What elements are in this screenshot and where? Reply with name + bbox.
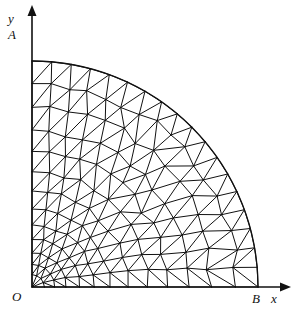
mesh-edge [82,140,100,143]
mesh-edge [93,275,110,287]
mesh-edge [32,209,46,210]
mesh-edge [65,114,87,137]
mesh-edge [80,159,97,164]
mesh-edge [78,243,85,252]
mesh-edge [45,268,50,274]
mesh-edge [93,275,94,287]
mesh-edge [80,143,101,159]
mesh-edge [96,164,110,174]
mesh-edge [186,252,187,268]
mesh-edge [141,213,154,223]
mesh-edge [87,75,110,91]
mesh-edge [46,192,48,209]
mesh-edge [154,150,165,166]
mesh-edge [145,174,151,190]
mesh-edge [88,114,106,120]
mesh-edge [54,280,66,287]
mesh-edge [203,215,222,231]
mesh-edge [121,108,139,115]
mesh-edge [138,237,161,239]
mesh-edge [118,144,135,153]
mesh-edge [135,121,157,144]
mesh-edge [185,142,205,147]
mesh-edge [49,152,65,157]
mesh-edge [58,213,71,220]
mesh-edge [171,135,185,147]
y-axis-arrowhead [28,5,37,16]
mesh-edge [180,166,194,181]
mesh-edge [32,225,44,227]
mesh-edge [206,248,209,270]
mesh-edge [209,248,238,250]
mesh-edge [49,106,50,131]
x-axis-label: x [271,292,277,305]
mesh-edge [138,223,154,239]
mesh-edge [53,244,62,249]
mesh-edge [48,173,50,193]
mesh-edge [49,131,65,137]
mesh-edge [80,159,81,179]
mesh-edge [147,269,148,287]
mesh-edge [110,271,128,273]
mesh-edge [187,268,189,287]
mesh-edge [173,218,182,235]
mesh-edge [110,273,128,287]
mesh-edge [56,231,67,234]
mesh-edge [65,140,82,157]
mesh-edge [71,220,82,226]
mesh-edge [50,90,70,107]
mesh-edge [142,237,161,254]
mesh-edge [32,62,52,84]
mesh-edge [194,166,204,180]
mesh-edge [120,212,141,213]
mesh-edge [154,135,171,150]
mesh-edge [100,143,118,152]
mesh-edge [148,269,167,287]
mesh-edge [157,121,171,135]
mesh-edge [44,210,46,227]
mesh-edge [37,276,41,279]
mesh-edge [203,157,217,180]
mesh-edge [167,268,187,270]
mesh-edge [167,252,186,269]
mesh-edge [209,231,232,249]
mesh-edge [222,215,232,231]
mesh-edge [64,157,66,178]
mesh-edge [75,264,88,266]
mesh-edge [182,215,198,236]
mesh-edge [222,210,245,215]
mesh-edge [139,115,157,121]
mesh-edge [111,174,123,183]
mesh-edge [81,179,94,190]
mesh-edge [65,278,66,287]
mesh-edge [88,249,98,264]
mesh-edge [50,274,53,280]
mesh-edge [32,210,46,225]
mesh-edge [82,226,90,238]
mesh-edge [217,174,228,196]
mesh-edge [138,239,142,254]
mesh-edge [182,235,186,252]
mesh-edge [142,255,149,270]
mesh-edge [165,204,174,218]
mesh-edge [51,64,71,83]
mesh-edge [50,157,66,173]
figure-container: y A O B x [0,0,293,314]
mesh-edge [135,144,153,151]
mesh-edge [154,147,185,151]
mesh-edge [56,213,58,231]
mesh-edge [90,237,97,248]
mesh-edge [161,252,186,254]
mesh-edge [62,249,69,258]
mesh-edge [32,264,39,265]
mesh-element-group [32,61,258,287]
mesh-edge [198,215,203,232]
mesh-edge [93,261,103,275]
mesh-edge [123,183,135,195]
mesh-edge [233,267,236,287]
mesh-edge [121,108,125,129]
mesh-edge [94,174,111,191]
mesh-edge [185,147,194,166]
mesh-edge [51,84,70,90]
mesh-edge [50,84,51,107]
